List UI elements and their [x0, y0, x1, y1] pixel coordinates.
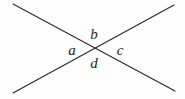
- intersecting-lines-svg: [0, 0, 185, 99]
- angle-label-d: d: [90, 56, 98, 71]
- angle-diagram: a b c d: [0, 0, 185, 99]
- descending-line: [13, 4, 175, 91]
- angle-label-a: a: [68, 43, 76, 58]
- ascending-line: [13, 5, 174, 93]
- angle-label-c: c: [117, 43, 124, 58]
- angle-label-b: b: [90, 27, 98, 42]
